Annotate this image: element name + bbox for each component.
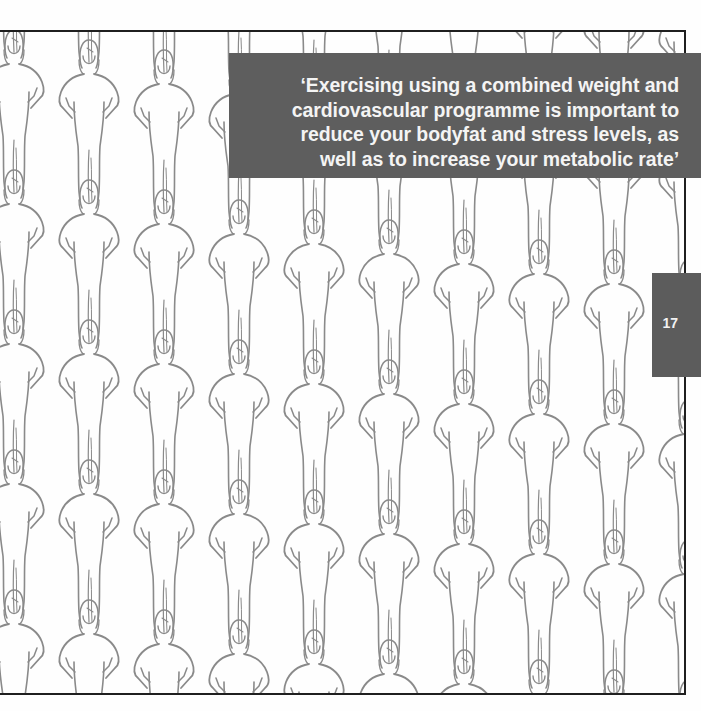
pull-quote-line: cardiovascular programme is important to	[239, 98, 679, 123]
pull-quote-line: reduce your bodyfat and stress levels, a…	[239, 122, 679, 147]
book-page: ‘Exercising using a combined weight and …	[0, 0, 701, 711]
page-number-tab: 17	[652, 273, 701, 377]
pull-quote-line: ‘Exercising using a combined weight and	[239, 73, 679, 98]
page-number: 17	[662, 315, 678, 331]
frame-border-bottom	[0, 693, 686, 695]
frame-border-top	[0, 30, 685, 32]
pull-quote-box: ‘Exercising using a combined weight and …	[229, 53, 701, 178]
pull-quote: ‘Exercising using a combined weight and …	[239, 73, 679, 171]
pull-quote-line: well as to increase your metabolic rate’	[239, 147, 679, 172]
